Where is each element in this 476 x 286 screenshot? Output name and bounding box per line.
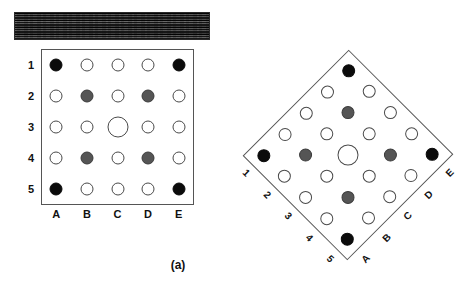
col-label-E: E (175, 209, 182, 220)
row-label-3: 3 (282, 211, 293, 222)
row-label-2: 2 (28, 90, 34, 101)
dot-E4 (172, 152, 185, 165)
dot-B3 (80, 121, 93, 134)
col-label-D: D (144, 209, 152, 220)
dot-C2 (111, 89, 124, 102)
dot-A1 (50, 58, 63, 71)
row-label-5: 5 (324, 254, 335, 265)
dot-C4 (111, 152, 124, 165)
dot-B4 (80, 152, 93, 165)
row-label-1: 1 (240, 168, 251, 179)
col-label-B: B (83, 209, 91, 220)
dot-A5 (50, 183, 63, 196)
panel-caption-a: (a) (171, 258, 186, 272)
row-label-2: 2 (261, 189, 272, 200)
figure-root: ABCDE12345 (a) 12345ABCDE (b) (0, 0, 476, 286)
dot-E1 (172, 58, 185, 71)
dot-D3 (142, 121, 155, 134)
dot-E3 (172, 121, 185, 134)
col-label-C: C (402, 210, 414, 222)
dot-E5 (172, 183, 185, 196)
dot-D4 (142, 152, 155, 165)
dot-B5 (80, 183, 93, 196)
dot-B1 (80, 58, 93, 71)
col-label-C: C (114, 209, 122, 220)
col-label-B: B (381, 232, 393, 244)
dot-A4 (50, 152, 63, 165)
rotated-grid-b (243, 50, 454, 261)
row-label-1: 1 (28, 59, 34, 70)
row-label-4: 4 (303, 232, 314, 243)
row-label-5: 5 (28, 184, 34, 195)
dot-E2 (172, 89, 185, 102)
dot-A2 (50, 89, 63, 102)
col-label-E: E (444, 168, 456, 180)
dot-D1 (142, 58, 155, 71)
col-label-D: D (423, 189, 435, 201)
row-label-4: 4 (28, 153, 34, 164)
dot-D5 (142, 183, 155, 196)
panel-a: ABCDE12345 (a) (0, 0, 238, 286)
dot-B2 (80, 89, 93, 102)
row-label-3: 3 (28, 122, 34, 133)
col-label-A: A (360, 253, 372, 265)
dot-C1 (111, 58, 124, 71)
wood-grain-texture-bar (14, 12, 210, 40)
col-label-A: A (52, 209, 60, 220)
dot-C3 (107, 117, 128, 138)
dot-D2 (142, 89, 155, 102)
panel-b: 12345ABCDE (b) (238, 0, 476, 286)
dot-C5 (111, 183, 124, 196)
dot-A3 (50, 121, 63, 134)
